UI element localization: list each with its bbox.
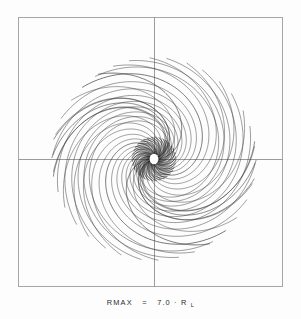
spiral-plot bbox=[0, 0, 301, 319]
origin-hole bbox=[150, 154, 159, 164]
figure-root: RMAX = 7.0 · R L bbox=[0, 0, 301, 319]
